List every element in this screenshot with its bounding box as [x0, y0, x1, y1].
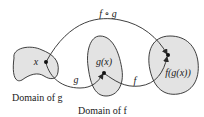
domain-f-label: Domain of f — [78, 105, 128, 116]
point-fgx-label: f(g(x)) — [165, 67, 191, 79]
point-x-label: x — [33, 56, 39, 67]
point-gx-label: g(x) — [96, 56, 113, 68]
domain-g-label: Domain of g — [12, 92, 63, 103]
composite-label: f ∘ g — [99, 8, 117, 19]
f-arrow-label: f — [134, 75, 138, 86]
composition-diagram: f ∘ g x g(x) f(g(x)) g f Domain of g Dom… — [0, 0, 204, 117]
range-region — [149, 36, 198, 94]
point-fgx — [166, 53, 170, 57]
g-arrow-label: g — [74, 74, 79, 85]
point-gx — [102, 71, 106, 75]
point-x — [44, 60, 48, 64]
